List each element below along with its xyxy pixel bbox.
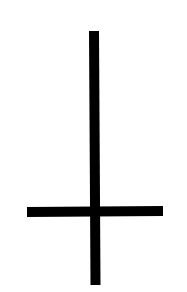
inverted-cross-icon (0, 0, 187, 292)
vertical-bar (94, 31, 96, 285)
figure-canvas (0, 0, 187, 292)
horizontal-bar (27, 211, 163, 212)
